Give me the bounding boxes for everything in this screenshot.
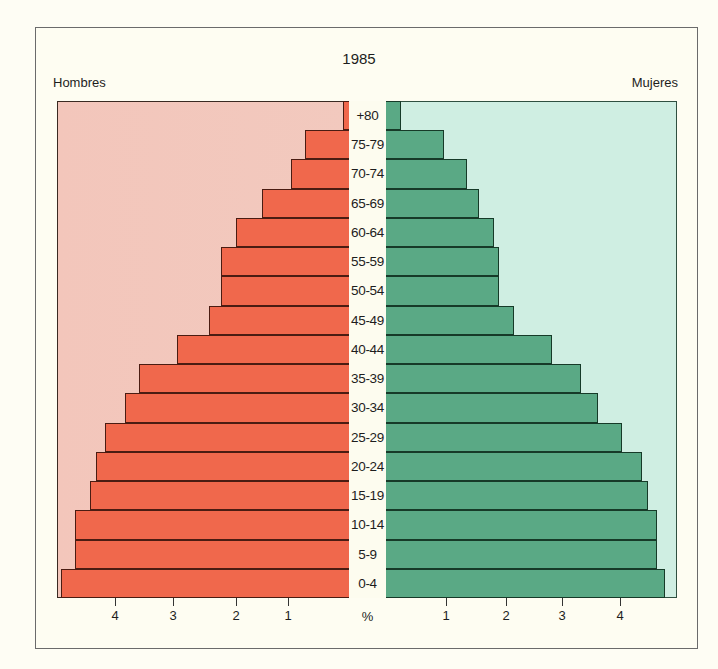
x-tick-label: 2 (226, 608, 246, 623)
age-group-label: 10-14 (349, 510, 386, 539)
male-bar (139, 364, 349, 393)
age-group-label: 70-74 (349, 159, 386, 188)
x-tick-label: 3 (163, 608, 183, 623)
x-tick (446, 598, 447, 606)
age-group-label: 15-19 (349, 481, 386, 510)
female-bar (386, 130, 444, 159)
pyramid-row: 0-4 (0, 569, 718, 598)
age-group-label: 20-24 (349, 452, 386, 481)
female-bar (386, 335, 552, 364)
x-tick-label: 2 (496, 608, 516, 623)
age-group-label: 35-39 (349, 364, 386, 393)
pyramid-row: 55-59 (0, 247, 718, 276)
male-bar (125, 393, 349, 422)
x-tick (288, 598, 289, 606)
female-bar (386, 364, 581, 393)
age-group-label: 30-34 (349, 393, 386, 422)
age-group-label: 65-69 (349, 189, 386, 218)
female-bar (386, 452, 642, 481)
age-group-label: 50-54 (349, 276, 386, 305)
male-bar (96, 452, 349, 481)
female-bar (386, 189, 479, 218)
female-bar (386, 423, 622, 452)
age-group-label: 0-4 (349, 569, 386, 598)
male-bar (75, 540, 349, 569)
x-tick (506, 598, 507, 606)
female-bar (386, 393, 598, 422)
x-tick-label: 4 (610, 608, 630, 623)
male-bar (221, 276, 349, 305)
male-bar (177, 335, 349, 364)
male-bar (90, 481, 349, 510)
x-tick-label: 1 (278, 608, 298, 623)
pyramid-row: 25-29 (0, 423, 718, 452)
female-bar (386, 510, 657, 539)
pyramid-row: 40-44 (0, 335, 718, 364)
x-tick (115, 598, 116, 606)
females-label: Mujeres (632, 75, 678, 90)
female-bar (386, 276, 499, 305)
male-bar (236, 218, 349, 247)
pyramid-row: 5-9 (0, 540, 718, 569)
age-group-label: 55-59 (349, 247, 386, 276)
pyramid-row: 20-24 (0, 452, 718, 481)
female-bar (386, 569, 665, 598)
pyramid-row: 75-79 (0, 130, 718, 159)
male-bar (262, 189, 349, 218)
pyramid-row: 30-34 (0, 393, 718, 422)
x-tick-label: 1 (436, 608, 456, 623)
axis-unit-label: % (349, 609, 386, 624)
x-tick (562, 598, 563, 606)
male-bar (105, 423, 349, 452)
pyramid-row: 50-54 (0, 276, 718, 305)
female-bar (386, 306, 514, 335)
pyramid-rows: +8075-7970-7465-6960-6455-5950-5445-4940… (0, 101, 718, 598)
age-group-label: 75-79 (349, 130, 386, 159)
female-bar (386, 159, 467, 188)
female-bar (386, 101, 401, 130)
x-tick-label: 3 (552, 608, 572, 623)
female-bar (386, 218, 494, 247)
pyramid-row: 70-74 (0, 159, 718, 188)
male-bar (291, 159, 349, 188)
pyramid-row: 60-64 (0, 218, 718, 247)
age-group-label: 25-29 (349, 423, 386, 452)
pyramid-row: 15-19 (0, 481, 718, 510)
age-group-label: 5-9 (349, 540, 386, 569)
male-bar (209, 306, 349, 335)
pyramid-row: 65-69 (0, 189, 718, 218)
female-bar (386, 540, 657, 569)
pyramid-row: 10-14 (0, 510, 718, 539)
pyramid-row: +80 (0, 101, 718, 130)
age-group-label: +80 (349, 101, 386, 130)
age-group-label: 40-44 (349, 335, 386, 364)
male-bar (61, 569, 349, 598)
pyramid-row: 35-39 (0, 364, 718, 393)
male-bar (75, 510, 349, 539)
chart-title: 1985 (0, 50, 718, 67)
x-tick-label: 4 (105, 608, 125, 623)
female-bar (386, 481, 648, 510)
male-bar (221, 247, 349, 276)
males-label: Hombres (53, 75, 106, 90)
x-tick (236, 598, 237, 606)
female-bar (386, 247, 499, 276)
age-group-label: 60-64 (349, 218, 386, 247)
age-group-label: 45-49 (349, 306, 386, 335)
x-tick (620, 598, 621, 606)
male-bar (305, 130, 349, 159)
x-tick (173, 598, 174, 606)
pyramid-row: 45-49 (0, 306, 718, 335)
